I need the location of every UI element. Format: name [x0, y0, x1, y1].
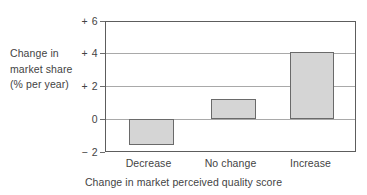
bar-no-change	[211, 99, 256, 119]
plot-area	[105, 21, 356, 152]
y-tick-mark-neg-2	[100, 152, 105, 153]
bar-chart-figure: Change in market share (% per year) + 6 …	[0, 0, 367, 195]
x-axis-title: Change in market perceived quality score	[0, 176, 367, 188]
bar-increase	[290, 52, 334, 119]
bar-decrease	[129, 119, 174, 145]
x-category-label-no-change: No change	[188, 157, 273, 169]
y-axis-title-line-2: market share	[10, 62, 92, 78]
y-tick-label-6: + 6	[64, 15, 98, 27]
y-tick-label-4: + 4	[64, 47, 98, 59]
x-category-label-increase: Increase	[268, 157, 353, 169]
x-category-label-decrease: Decrease	[106, 157, 191, 169]
y-tick-label-0: 0	[64, 113, 98, 125]
y-tick-label-neg-2: − 2	[64, 146, 98, 158]
y-tick-label-2: + 2	[64, 80, 98, 92]
